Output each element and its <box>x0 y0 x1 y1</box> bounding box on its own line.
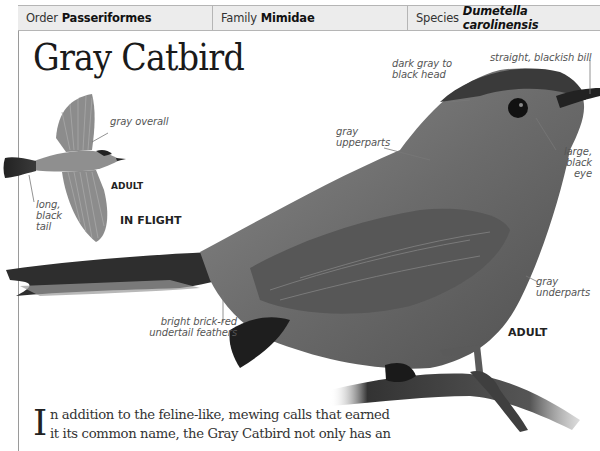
label-upperparts: gray upperparts <box>336 126 396 148</box>
label-long-black-tail: long, black tail <box>36 199 76 232</box>
bird-illustrations <box>0 0 600 451</box>
flight-age-tag: ADULT <box>111 181 143 191</box>
perched-bird-photo <box>6 68 600 432</box>
label-gray-overall: gray overall <box>110 116 168 127</box>
field-guide-page: Order Passeriformes Family Mimidae Speci… <box>0 0 600 451</box>
body-paragraph: In addition to the feline-like, mewing c… <box>34 405 394 443</box>
photo-age-tag: ADULT <box>508 326 547 339</box>
label-eye: large, black eye <box>562 146 592 179</box>
body-text: n addition to the feline-like, mewing ca… <box>50 407 391 441</box>
label-underparts: gray underparts <box>536 276 596 298</box>
drop-cap: I <box>33 406 47 440</box>
label-head: dark gray to black head <box>392 58 462 80</box>
flight-caption: IN FLIGHT <box>120 214 181 227</box>
label-undertail: bright brick-red undertail feathers <box>147 316 237 338</box>
label-bill: straight, blackish bill <box>490 52 592 63</box>
